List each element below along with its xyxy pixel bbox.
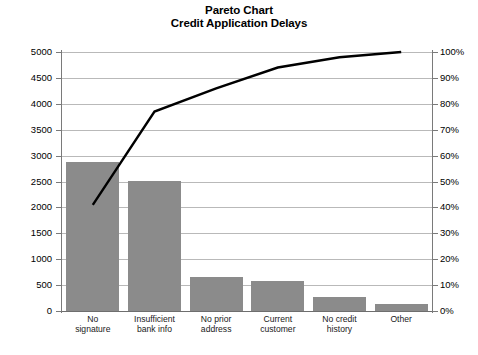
x-axis-category-label: No prioraddress: [185, 314, 247, 334]
y-axis-left-tick-label: 5000: [2, 47, 52, 57]
y-axis-right-tick: [432, 207, 438, 208]
category-label-line: No credit: [309, 314, 371, 324]
x-axis-category-label: Nosignature: [62, 314, 124, 334]
y-axis-left-tick-label: 2000: [2, 202, 52, 212]
y-axis-right-tick: [432, 104, 438, 105]
y-axis-right-tick-label: 20%: [440, 254, 478, 264]
category-label-line: Other: [370, 314, 432, 324]
x-axis-category-labels: NosignatureInsufficientbank infoNo prior…: [62, 314, 432, 344]
chart-title-block: Pareto Chart Credit Application Delays: [0, 4, 478, 30]
y-axis-right-tick: [432, 311, 438, 312]
y-axis-right-tick: [432, 233, 438, 234]
category-label-line: customer: [247, 324, 309, 334]
y-axis-right-tick: [432, 259, 438, 260]
y-axis-right-tick: [432, 182, 438, 183]
chart-subtitle: Credit Application Delays: [0, 17, 478, 30]
y-axis-right-tick-label: 70%: [440, 125, 478, 135]
category-label-line: No: [62, 314, 124, 324]
y-axis-left-tick-label: 4500: [2, 73, 52, 83]
y-axis-left-tick-label: 0: [2, 306, 52, 316]
y-axis-right-tick: [432, 78, 438, 79]
y-axis-right-tick-label: 10%: [440, 280, 478, 290]
y-axis-left-labels: 5000450040003500300025002000150010005000: [0, 52, 52, 311]
category-label-line: history: [309, 324, 371, 334]
x-axis-category-label: Insufficientbank info: [124, 314, 186, 334]
y-axis-left-tick-label: 1500: [2, 228, 52, 238]
y-axis-left-tick-label: 3000: [2, 151, 52, 161]
y-axis-right-tick-label: 80%: [440, 99, 478, 109]
y-axis-right-tick: [432, 52, 438, 53]
y-axis-right-tick-label: 30%: [440, 228, 478, 238]
y-axis-left-tick-label: 3500: [2, 125, 52, 135]
y-axis-right-tick: [432, 130, 438, 131]
y-axis-right-tick-label: 90%: [440, 73, 478, 83]
y-axis-left-tick: [56, 311, 62, 312]
category-label-line: address: [185, 324, 247, 334]
y-axis-right-tick-label: 60%: [440, 151, 478, 161]
cumulative-line-series: [62, 52, 432, 311]
y-axis-left-tick-label: 4000: [2, 99, 52, 109]
x-axis-line: [61, 311, 433, 312]
category-label-line: bank info: [124, 324, 186, 334]
y-axis-right-tick-label: 50%: [440, 177, 478, 187]
category-label-line: signature: [62, 324, 124, 334]
y-axis-right-tick-label: 0%: [440, 306, 478, 316]
category-label-line: Insufficient: [124, 314, 186, 324]
page-title: Pareto Chart: [0, 4, 478, 17]
category-label-line: No prior: [185, 314, 247, 324]
x-axis-category-label: No credithistory: [309, 314, 371, 334]
category-label-line: Current: [247, 314, 309, 324]
figure-caption: [0, 345, 478, 355]
x-axis-category-label: Other: [370, 314, 432, 324]
x-axis-category-label: Currentcustomer: [247, 314, 309, 334]
y-axis-right-tick: [432, 156, 438, 157]
y-axis-left-tick-label: 500: [2, 280, 52, 290]
y-axis-right-labels: 100%90%80%70%60%50%40%30%20%10%0%: [440, 52, 478, 311]
y-axis-right-tick: [432, 285, 438, 286]
y-axis-left-tick-label: 1000: [2, 254, 52, 264]
y-axis-right-tick-label: 40%: [440, 202, 478, 212]
y-axis-left-tick-label: 2500: [2, 177, 52, 187]
y-axis-right-tick-label: 100%: [440, 47, 478, 57]
pareto-chart: Pareto Chart Credit Application Delays 5…: [0, 0, 478, 355]
plot-area: [62, 52, 432, 311]
